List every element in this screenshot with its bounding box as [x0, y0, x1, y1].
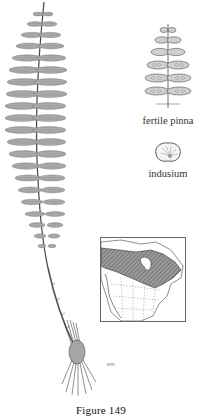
fertile-pinna-illustration	[142, 20, 194, 110]
fertile-pinna-icon	[142, 20, 194, 110]
figure-caption: Figure 149	[76, 404, 126, 416]
artist-signature: BRF	[107, 362, 115, 367]
indusium-icon	[152, 140, 184, 164]
fern-frond-illustration	[0, 0, 110, 400]
range-map	[100, 237, 186, 322]
indusium-label: indusium	[140, 168, 196, 179]
north-america-map-icon	[101, 238, 185, 321]
fern-frond-icon	[0, 0, 110, 400]
fertile-pinna-label: fertile pinna	[132, 115, 204, 126]
indusium-illustration	[152, 140, 184, 164]
